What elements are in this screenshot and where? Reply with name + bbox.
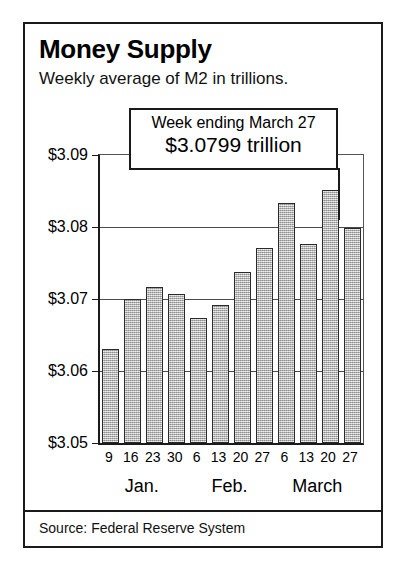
footer-divider (25, 510, 381, 512)
bar (256, 248, 273, 443)
y-axis-label: $3.06 (48, 362, 88, 380)
bar (190, 318, 207, 443)
y-axis-label: $3.05 (48, 434, 88, 452)
y-axis-tick (92, 443, 100, 444)
callout-leader-vertical (338, 170, 340, 220)
bar (102, 349, 119, 443)
y-axis-tick (92, 371, 100, 372)
bar (146, 287, 163, 443)
bar (344, 228, 361, 443)
bar (124, 299, 141, 443)
x-axis-month-label: Feb. (185, 476, 275, 497)
y-axis-label: $3.07 (48, 290, 88, 308)
x-axis-month-label: March (272, 476, 362, 497)
callout-week-label: Week ending March 27 (131, 114, 336, 132)
bar (212, 305, 229, 443)
bar (322, 190, 339, 443)
y-axis-tick (92, 299, 100, 300)
bar (300, 244, 317, 443)
chart-figure: Money Supply Weekly average of M2 in tri… (23, 22, 383, 548)
source-note: Source: Federal Reserve System (39, 520, 245, 536)
bar (278, 203, 295, 443)
callout-value-label: $3.0799 trillion (131, 133, 336, 157)
bar-series (100, 155, 363, 443)
x-axis-month-label: Jan. (97, 476, 187, 497)
bar (168, 294, 185, 443)
x-axis-label: 27 (336, 449, 364, 465)
y-axis-tick (92, 155, 100, 156)
bar (234, 272, 251, 443)
callout-box: Week ending March 27 $3.0799 trillion (129, 108, 338, 170)
y-axis-label: $3.08 (48, 218, 88, 236)
y-axis-label: $3.09 (48, 146, 88, 164)
page-title: Money Supply (39, 34, 212, 65)
y-axis-tick (92, 227, 100, 228)
plot-area: $3.05$3.06$3.07$3.08$3.09 (98, 154, 364, 445)
chart-subtitle: Weekly average of M2 in trillions. (39, 69, 288, 89)
